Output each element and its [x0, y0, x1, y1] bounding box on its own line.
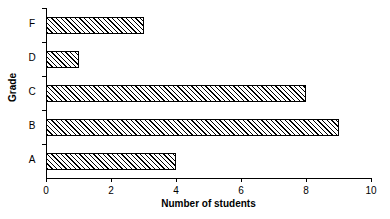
bar-chart: Grade 0246810 ABCDF Number of students: [0, 0, 390, 219]
y-tick: [42, 110, 46, 111]
y-axis-title: Grade: [7, 62, 18, 114]
y-tick-label-d: D: [24, 52, 40, 63]
x-tick-label: 6: [226, 185, 256, 196]
x-tick-label: 4: [161, 185, 191, 196]
y-tick-label-b: B: [24, 120, 40, 131]
bar-d: [46, 51, 79, 68]
y-tick: [42, 8, 46, 9]
x-tick: [306, 178, 307, 182]
x-tick: [371, 178, 372, 182]
bar-c: [46, 85, 306, 102]
x-tick-label: 10: [356, 185, 386, 196]
x-tick: [176, 178, 177, 182]
x-tick: [241, 178, 242, 182]
x-axis-line: [46, 178, 371, 179]
x-tick-label: 8: [291, 185, 321, 196]
y-tick-label-f: F: [24, 18, 40, 29]
x-tick: [46, 178, 47, 182]
y-tick: [42, 76, 46, 77]
bar-b: [46, 119, 339, 136]
x-tick: [111, 178, 112, 182]
plot-area: 0246810 ABCDF: [46, 8, 371, 178]
x-tick-label: 0: [31, 185, 61, 196]
bar-a: [46, 153, 176, 170]
y-tick: [42, 42, 46, 43]
x-tick-label: 2: [96, 185, 126, 196]
x-axis-title: Number of students: [46, 198, 371, 209]
y-tick-label-a: A: [24, 154, 40, 165]
y-tick: [42, 144, 46, 145]
bar-f: [46, 17, 144, 34]
y-tick-label-c: C: [24, 86, 40, 97]
